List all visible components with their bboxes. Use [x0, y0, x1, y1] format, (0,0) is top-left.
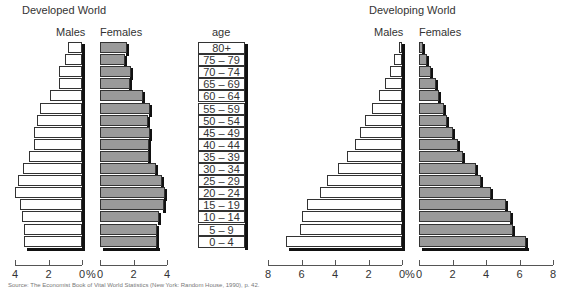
age-label: 25 – 29 [198, 175, 245, 187]
male-bar [360, 127, 402, 138]
developed-female-axis-tick [100, 260, 101, 265]
developed-females-label: Females [100, 26, 142, 38]
female-bar [419, 127, 453, 138]
developed-male-axis-tick [82, 260, 83, 265]
age-label: 50 – 54 [198, 115, 245, 127]
developing-female-axis-line [419, 265, 553, 266]
male-bar [327, 175, 402, 186]
developing-females-label: Females [419, 26, 461, 38]
age-label: 80+ [198, 42, 245, 54]
female-bottom-shadow [422, 248, 529, 251]
female-bar [100, 115, 148, 126]
source-note: Source: The Economist Book of Vital Worl… [8, 282, 259, 288]
male-bar [15, 187, 82, 198]
developed-male-axis-tick-label: 2 [45, 268, 51, 280]
female-bar [100, 103, 150, 114]
female-bar [419, 115, 447, 126]
male-bar [379, 90, 402, 101]
developed-female-axis-tick-label: 2 [130, 268, 136, 280]
male-bar [307, 199, 402, 210]
age-label: 5 – 9 [198, 224, 245, 236]
male-bar [23, 163, 82, 174]
developing-males-label: Males [374, 26, 403, 38]
male-bar [390, 66, 402, 77]
male-bar [40, 103, 82, 114]
female-bar [100, 211, 159, 222]
age-label: 15 – 19 [198, 199, 245, 211]
developing-female-axis-tick [486, 260, 487, 265]
female-bar [419, 66, 431, 77]
female-bar [100, 90, 143, 101]
developing-male-axis-tick [369, 260, 370, 265]
male-bar [286, 236, 402, 247]
male-bar [24, 236, 82, 247]
developing-female-axis-tick-label: 2 [449, 268, 455, 280]
developed-world-title: Developed World [22, 4, 106, 16]
female-bar [100, 224, 157, 235]
female-bar [419, 139, 458, 150]
female-bar [100, 127, 150, 138]
female-bar [419, 163, 476, 174]
age-label: 35 – 39 [198, 151, 245, 163]
age-label: 65 – 69 [198, 78, 245, 90]
male-bar [302, 211, 403, 222]
age-header: age [212, 26, 230, 38]
male-bar [59, 66, 82, 77]
male-bar [34, 139, 82, 150]
female-bar [100, 54, 125, 65]
male-bar [320, 187, 402, 198]
developing-female-axis-tick [453, 260, 454, 265]
percent-label: % [86, 268, 96, 280]
female-bar [419, 42, 423, 53]
age-column-shadow [245, 44, 248, 250]
male-bar [29, 151, 82, 162]
developed-male-axis-tick [15, 260, 16, 265]
age-label: 60 – 64 [198, 90, 245, 102]
developing-male-axis-tick [302, 260, 303, 265]
female-bottom-shadow [103, 248, 160, 251]
female-bar [100, 66, 131, 77]
female-bar [100, 151, 149, 162]
age-label: 75 – 79 [198, 54, 245, 66]
developing-female-axis-tick-label: 6 [516, 268, 522, 280]
male-bar [37, 115, 82, 126]
age-label: 30 – 34 [198, 163, 245, 175]
developing-female-axis-tick [419, 260, 420, 265]
developing-male-axis-tick-label: 8 [265, 268, 271, 280]
developed-males-label: Males [56, 26, 85, 38]
male-bar [347, 151, 402, 162]
female-bar [419, 54, 427, 65]
developing-male-axis-tick [402, 260, 403, 265]
male-bar [68, 42, 82, 53]
female-bar [419, 236, 526, 247]
developed-male-axis-line [15, 265, 82, 266]
developing-male-axis-tick-label: 6 [298, 268, 304, 280]
developing-female-axis-tick [520, 260, 521, 265]
developed-male-axis-tick [49, 260, 50, 265]
male-bar [399, 42, 402, 53]
female-bar [419, 78, 436, 89]
male-bar [20, 199, 82, 210]
developed-male-axis-tick-label: 0 [79, 268, 85, 280]
male-bar [65, 54, 82, 65]
female-bar [419, 103, 444, 114]
age-label: 45 – 49 [198, 127, 245, 139]
male-bar [24, 224, 82, 235]
developed-female-axis-tick [167, 260, 168, 265]
female-bar [100, 42, 127, 53]
developed-female-axis-tick-label: 4 [164, 268, 170, 280]
female-bar [100, 139, 149, 150]
female-bar [419, 90, 439, 101]
developed-female-axis-tick [134, 260, 135, 265]
female-bar [100, 199, 164, 210]
age-label: 10 – 14 [198, 211, 245, 223]
age-label: 20 – 24 [198, 187, 245, 199]
age-label: 70 – 74 [198, 66, 245, 78]
male-bar [372, 103, 402, 114]
female-bar [100, 236, 157, 247]
developing-female-axis-tick [553, 260, 554, 265]
male-bar [18, 175, 82, 186]
age-label: 55 – 59 [198, 103, 245, 115]
developed-female-axis-line [100, 265, 167, 266]
male-bottom-shadow [289, 248, 405, 251]
